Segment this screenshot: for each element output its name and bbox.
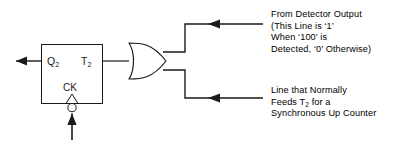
- ck-pin-label: CK: [63, 82, 77, 93]
- circuit-diagram-canvas: Q2 T2 CK From Detector Output (This Line…: [0, 0, 396, 145]
- counter-annotation-line-2-subscript: 2: [305, 101, 309, 108]
- detector-annotation-line-1: From Detector Output: [271, 9, 371, 21]
- counter-annotation-line-2-post: for a: [309, 97, 331, 107]
- counter-annotation-line-1: Line that Normally: [271, 85, 376, 97]
- t2-pin-label: T2: [81, 55, 91, 70]
- clock-inversion-bubble-icon: [68, 104, 76, 112]
- counter-annotation-line-3: Synchronous Up Counter: [271, 108, 376, 120]
- q2-pin-label: Q2: [47, 55, 59, 70]
- detector-output-annotation: From Detector Output (This Line is ‘1’ W…: [271, 9, 371, 55]
- detector-signal-arrowhead: [208, 19, 220, 28]
- q2-output-arrowhead: [16, 57, 27, 66]
- counter-annotation-line-2-pre: Feeds T: [271, 97, 305, 107]
- clock-input-arrowhead: [67, 114, 76, 126]
- counter-branch-wire: [163, 70, 263, 98]
- or-gate-icon: [129, 43, 166, 79]
- detector-annotation-line-3: When ‘100’ is: [271, 32, 371, 44]
- detector-annotation-line-4: Detected, ‘0’ Otherwise): [271, 44, 371, 56]
- detector-branch-wire: [163, 24, 263, 52]
- counter-annotation-line-2: Feeds T2 for a: [271, 97, 376, 109]
- detector-annotation-line-2: (This Line is ‘1’: [271, 21, 371, 33]
- q2-pin-subscript: 2: [55, 60, 59, 69]
- t2-pin-subscript: 2: [87, 60, 91, 69]
- counter-feed-annotation: Line that Normally Feeds T2 for a Synchr…: [271, 85, 376, 120]
- counter-signal-arrowhead: [208, 93, 220, 102]
- clock-edge-triangle-icon: [66, 94, 78, 104]
